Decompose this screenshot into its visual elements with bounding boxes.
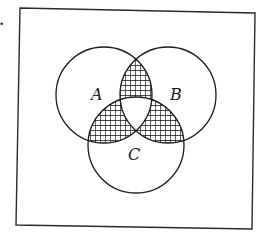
venn-diagram: • A B C [0,0,259,233]
margin-mark: • [0,19,4,29]
set-b-label: B [169,85,182,104]
set-a-label: A [89,85,103,104]
set-c-label: C [128,145,140,164]
